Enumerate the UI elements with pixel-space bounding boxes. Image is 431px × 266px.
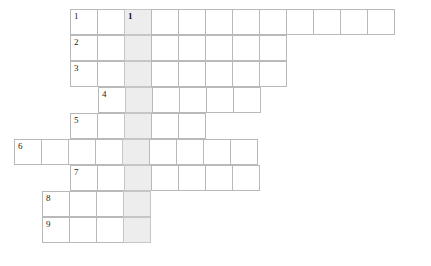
cell-number: 9 — [46, 218, 51, 230]
crossword-cell[interactable]: 9 — [42, 217, 70, 243]
crossword-cell[interactable] — [259, 61, 287, 87]
crossword-cell[interactable] — [206, 87, 234, 113]
cell-number: 6 — [18, 140, 23, 152]
crossword-cell[interactable] — [97, 61, 125, 87]
crossword-cell[interactable] — [97, 9, 125, 35]
crossword-row: 8 — [42, 191, 150, 216]
crossword-cell[interactable] — [286, 9, 314, 35]
crossword-row: 2 — [70, 35, 286, 60]
cell-number: 8 — [46, 192, 51, 204]
crossword-cell[interactable] — [205, 35, 233, 61]
crossword-cell[interactable] — [69, 191, 97, 217]
crossword-cell[interactable] — [205, 9, 233, 35]
cell-number: 1 — [128, 10, 133, 22]
crossword-cell[interactable] — [232, 9, 260, 35]
crossword-cell[interactable] — [96, 217, 124, 243]
crossword-cell[interactable] — [232, 61, 260, 87]
crossword-row: 11 — [70, 9, 394, 34]
crossword-cell[interactable] — [96, 191, 124, 217]
crossword-cell[interactable] — [203, 139, 231, 165]
crossword-cell[interactable] — [69, 217, 97, 243]
crossword-cell[interactable] — [97, 35, 125, 61]
crossword-cell[interactable] — [97, 113, 125, 139]
crossword-cell[interactable] — [340, 9, 368, 35]
crossword-cell[interactable] — [151, 9, 179, 35]
crossword-cell-highlighted[interactable] — [124, 61, 152, 87]
crossword-cell[interactable] — [313, 9, 341, 35]
crossword-cell[interactable] — [151, 61, 179, 87]
crossword-cell-highlighted[interactable] — [125, 87, 153, 113]
crossword-cell[interactable] — [178, 165, 206, 191]
crossword-cell[interactable]: 2 — [70, 35, 98, 61]
crossword-cell[interactable] — [259, 9, 287, 35]
crossword-cell-highlighted[interactable] — [124, 35, 152, 61]
cell-number: 3 — [74, 62, 79, 74]
cell-number: 2 — [74, 36, 79, 48]
crossword-cell[interactable] — [205, 165, 233, 191]
crossword-cell[interactable] — [230, 139, 258, 165]
crossword-row: 7 — [70, 165, 259, 190]
crossword-row: 5 — [70, 113, 205, 138]
crossword-cell[interactable] — [151, 165, 179, 191]
crossword-row: 6 — [14, 139, 257, 164]
crossword-cell[interactable]: 4 — [98, 87, 126, 113]
crossword-cell[interactable] — [176, 139, 204, 165]
crossword-cell[interactable] — [41, 139, 69, 165]
crossword-row: 4 — [98, 87, 260, 112]
crossword-cell[interactable] — [149, 139, 177, 165]
crossword-cell[interactable] — [95, 139, 123, 165]
crossword-row: 9 — [42, 217, 150, 242]
crossword-cell[interactable]: 5 — [70, 113, 98, 139]
crossword-cell[interactable] — [232, 165, 260, 191]
crossword-cell-highlighted[interactable] — [124, 165, 152, 191]
crossword-cell[interactable] — [232, 35, 260, 61]
crossword-cell[interactable] — [151, 35, 179, 61]
crossword-cell[interactable] — [205, 61, 233, 87]
crossword-cell[interactable] — [259, 35, 287, 61]
crossword-cell[interactable] — [178, 113, 206, 139]
cell-number: 5 — [74, 114, 79, 126]
crossword-cell[interactable]: 8 — [42, 191, 70, 217]
crossword-cell[interactable] — [178, 35, 206, 61]
crossword-cell[interactable] — [179, 87, 207, 113]
crossword-cell-highlighted[interactable] — [124, 113, 152, 139]
crossword-cell[interactable] — [68, 139, 96, 165]
crossword-grid: 1123456789 — [0, 0, 431, 266]
crossword-cell[interactable] — [97, 165, 125, 191]
crossword-row: 3 — [70, 61, 286, 86]
crossword-cell[interactable]: 3 — [70, 61, 98, 87]
crossword-cell[interactable] — [367, 9, 395, 35]
cell-number: 7 — [74, 166, 79, 178]
crossword-cell[interactable] — [178, 9, 206, 35]
cell-number: 1 — [74, 10, 79, 22]
cell-number: 4 — [102, 88, 107, 100]
crossword-cell[interactable]: 7 — [70, 165, 98, 191]
crossword-cell[interactable]: 1 — [70, 9, 98, 35]
crossword-cell[interactable] — [178, 61, 206, 87]
crossword-cell-highlighted[interactable] — [123, 191, 151, 217]
crossword-cell[interactable] — [152, 87, 180, 113]
crossword-cell[interactable] — [233, 87, 261, 113]
crossword-cell[interactable]: 6 — [14, 139, 42, 165]
crossword-cell-highlighted[interactable]: 1 — [124, 9, 152, 35]
crossword-cell-highlighted[interactable] — [122, 139, 150, 165]
crossword-cell[interactable] — [151, 113, 179, 139]
crossword-cell-highlighted[interactable] — [123, 217, 151, 243]
